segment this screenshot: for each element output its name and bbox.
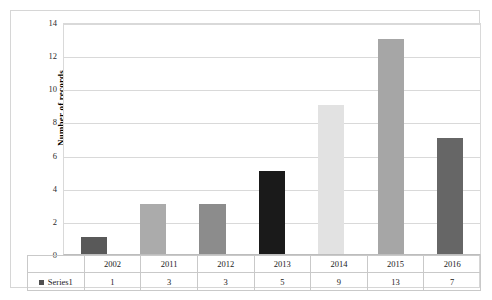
y-axis-tick-label: 6: [27, 152, 57, 161]
bar-2012[interactable]: [199, 204, 225, 254]
bar-slot: [64, 24, 123, 254]
table-cell-category: 2015: [367, 256, 424, 273]
table-cell-value: 3: [141, 273, 198, 291]
bar-slot: [421, 24, 480, 254]
bar-2002[interactable]: [81, 237, 107, 254]
table-cell-value: 3: [197, 273, 254, 291]
bar-2013[interactable]: [259, 171, 285, 254]
table-cell-category: 2011: [141, 256, 198, 273]
y-axis-tick-label: 4: [27, 185, 57, 194]
table-row-series1: Series1 13359137: [28, 273, 481, 291]
y-axis-tick-label: 10: [27, 85, 57, 94]
chart-container: Number of records 02468101214 2002201120…: [0, 0, 492, 300]
legend-series1: Series1: [28, 273, 85, 291]
y-axis-tick-labels: 02468101214: [27, 23, 61, 255]
table-cell-category: 2016: [424, 256, 481, 273]
table-corner-blank: [28, 256, 85, 273]
bar-2014[interactable]: [318, 105, 344, 254]
legend-series1-label: Series1: [48, 277, 73, 287]
bar-series: [64, 24, 480, 254]
bar-slot: [361, 24, 420, 254]
table-row-categories: 2002201120122013201420152016: [28, 256, 481, 273]
table-cell-category: 2013: [254, 256, 311, 273]
y-axis-tick-label: 2: [27, 218, 57, 227]
y-axis-tick-label: 12: [27, 52, 57, 61]
bar-2016[interactable]: [437, 138, 463, 254]
table-cell-category: 2012: [197, 256, 254, 273]
bar-slot: [242, 24, 301, 254]
chart-data-table: 2002201120122013201420152016 Series1 133…: [27, 255, 481, 291]
bar-slot: [123, 24, 182, 254]
y-axis-tick-label: 14: [27, 19, 57, 28]
bar-slot: [183, 24, 242, 254]
y-axis-tick-label: 8: [27, 118, 57, 127]
table-cell-category: 2014: [311, 256, 368, 273]
table-cell-category: 2002: [84, 256, 141, 273]
table-cell-value: 13: [367, 273, 424, 291]
bar-2015[interactable]: [378, 39, 404, 254]
bar-2011[interactable]: [140, 204, 166, 254]
table-cell-value: 9: [311, 273, 368, 291]
bar-slot: [302, 24, 361, 254]
table-cell-value: 7: [424, 273, 481, 291]
chart-frame: Number of records 02468101214 2002201120…: [10, 10, 480, 288]
table-cell-value: 1: [84, 273, 141, 291]
legend-swatch-icon: [39, 280, 44, 285]
table-cell-value: 5: [254, 273, 311, 291]
plot-area: [63, 23, 481, 255]
